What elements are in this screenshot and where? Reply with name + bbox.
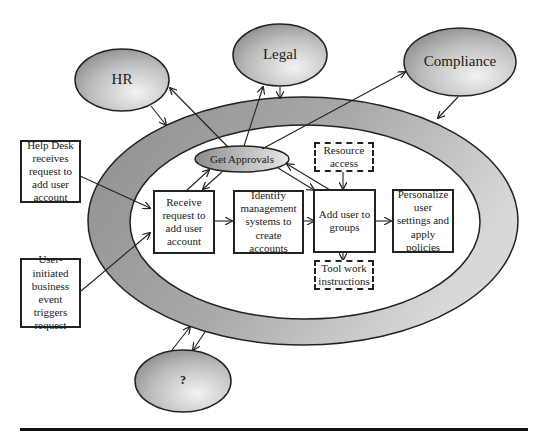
- legal-label: Legal: [233, 39, 327, 71]
- step-identify-systems: Identify management systems to create ac…: [233, 190, 304, 254]
- hr-label: HR: [75, 64, 169, 96]
- step-receive-request: Receive request to add user account: [153, 190, 215, 254]
- compliance-label: Compliance: [404, 46, 516, 78]
- tool-work-instructions-box: Tool work instructions: [314, 260, 374, 290]
- unknown-label: ?: [160, 372, 206, 390]
- user-event-trigger-box: User-initiated business event triggers r…: [20, 258, 81, 328]
- resource-access-box: Resource access: [314, 142, 374, 172]
- bottom-rule: [20, 428, 528, 431]
- step-personalize: Personalize user settings and apply poli…: [392, 189, 454, 253]
- step-add-to-groups: Add user to groups: [313, 189, 376, 253]
- get-approvals-label: Get Approvals: [196, 151, 288, 167]
- helpdesk-trigger-box: Help Desk receives request to add user a…: [20, 140, 81, 203]
